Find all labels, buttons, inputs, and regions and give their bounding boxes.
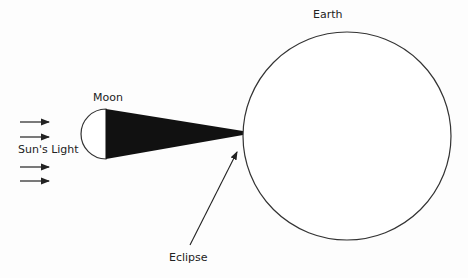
earth-label: Earth bbox=[313, 8, 343, 21]
eclipse-diagram: Earth Moon Sun's Light Eclipse bbox=[0, 0, 468, 278]
eclipse-pointer-arrow bbox=[190, 152, 237, 245]
moon-lit-half bbox=[81, 109, 106, 159]
moon-label: Moon bbox=[93, 91, 123, 104]
eclipse-label: Eclipse bbox=[169, 251, 208, 264]
moon-shadow-cone bbox=[106, 109, 243, 159]
diagram-canvas bbox=[0, 0, 468, 278]
sun-light-label: Sun's Light bbox=[18, 143, 79, 156]
earth-circle bbox=[243, 32, 451, 240]
